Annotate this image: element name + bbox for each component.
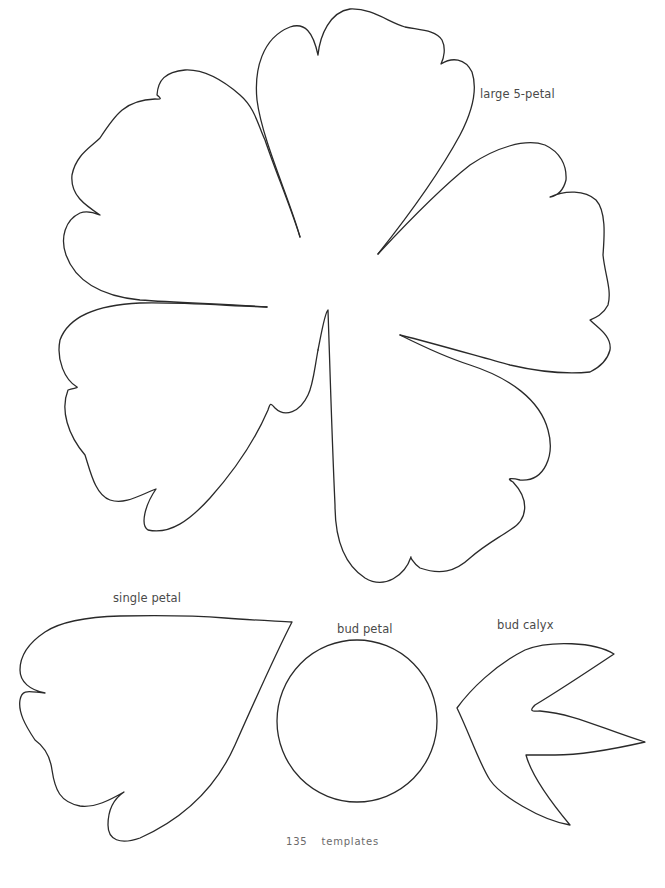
template-page: large 5-petal single petal bud petal bud… — [0, 0, 665, 888]
section-title: templates — [321, 836, 379, 847]
label-bud-calyx: bud calyx — [497, 618, 554, 632]
flower-petal-lower-right — [318, 310, 550, 582]
label-bud-petal: bud petal — [337, 622, 393, 636]
flower-petal-top — [256, 9, 474, 254]
label-large-5-petal: large 5-petal — [480, 87, 555, 101]
flower-petal-right — [378, 143, 610, 373]
bud-petal-shape — [277, 640, 437, 802]
template-artwork — [0, 0, 665, 888]
single-petal-shape — [20, 616, 292, 842]
flower-petal-lower-left — [59, 303, 318, 531]
flower-petal-upper-left — [64, 70, 300, 307]
label-single-petal: single petal — [113, 591, 181, 605]
page-number: 135 — [286, 836, 308, 847]
bud-calyx-shape — [457, 644, 645, 825]
page-footer: 135templates — [0, 836, 665, 847]
